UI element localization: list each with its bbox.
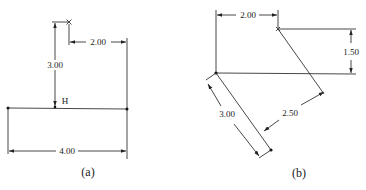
point-dot [126, 108, 129, 111]
diagram-canvas: 3.00 2.00 H 4.00 (a) 2.00 [0, 0, 366, 190]
dimension-label-4-00: 4.00 [59, 146, 75, 156]
extension-line [206, 73, 216, 80]
figure-b: 2.00 1.50 3.00 2.50 (b) [206, 10, 359, 180]
figure-a: 3.00 2.00 H 4.00 (a) [7, 20, 129, 180]
figure-caption-b: (b) [292, 166, 306, 180]
point-dot [54, 106, 57, 109]
dimension-label-3-00: 3.00 [47, 60, 63, 70]
dimension-line-diagonal [208, 84, 221, 106]
dimension-leader [264, 120, 279, 131]
base-line [8, 108, 127, 109]
dimension-line-diagonal [234, 124, 259, 156]
dimension-label-2-00: 2.00 [90, 37, 106, 47]
dimension-label-3-00: 3.00 [219, 109, 235, 119]
diagonal-line [278, 29, 324, 94]
reference-line [216, 73, 356, 74]
dimension-label-1-50: 1.50 [343, 47, 359, 57]
dimension-label-2-50: 2.50 [282, 108, 298, 118]
figure-caption-a: (a) [81, 165, 94, 179]
dimension-label-2-00: 2.00 [240, 10, 256, 20]
dimension-leader [301, 92, 324, 105]
point-label-h: H [62, 96, 69, 106]
extension-line [259, 150, 271, 158]
